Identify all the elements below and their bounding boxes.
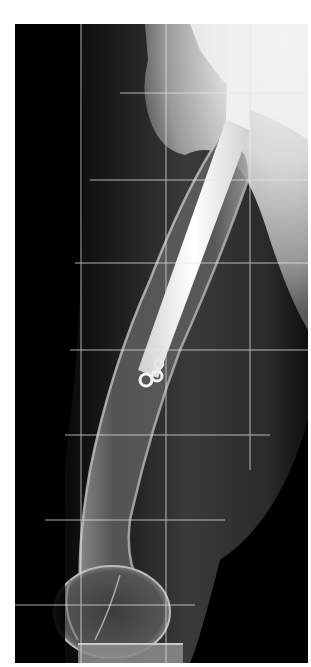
film-edge	[15, 24, 65, 663]
tibia-plateau	[78, 644, 183, 663]
xray-canvas	[15, 24, 308, 663]
xray-image	[15, 24, 308, 663]
